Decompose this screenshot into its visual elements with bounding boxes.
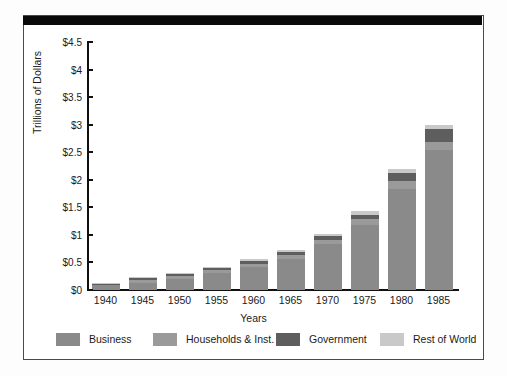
bar-segment	[351, 225, 379, 290]
bar-segment	[240, 264, 268, 267]
y-tick-label: $1	[71, 229, 82, 240]
chart-figure: Trillions of Dollars $0$0.5$1$1.5$2$2.5$…	[0, 0, 507, 376]
legend-item: Households & Inst.	[153, 330, 274, 348]
legend-swatch	[276, 333, 300, 346]
y-tick-mark	[87, 206, 93, 208]
x-axis-title: Years	[0, 312, 507, 324]
bar-segment	[425, 150, 453, 290]
bar-segment	[425, 142, 453, 150]
y-axis-labels: $0$0.5$1$1.5$2$2.5$3$3.5$4$4.5	[38, 42, 82, 290]
y-tick-label: $4.5	[63, 37, 82, 48]
bar-segment	[351, 219, 379, 224]
y-tick-label: $0	[71, 285, 82, 296]
bar-segment	[388, 169, 416, 173]
bar-segment	[129, 280, 157, 283]
bar-segment	[203, 268, 231, 270]
x-tick-label: 1985	[427, 294, 450, 306]
y-tick-label: $2	[71, 174, 82, 185]
y-tick-mark	[87, 96, 93, 98]
y-tick-mark	[87, 289, 93, 291]
bar-segment	[388, 181, 416, 188]
legend-label: Government	[309, 333, 367, 345]
bar-1985	[425, 125, 453, 290]
bar-segment	[92, 285, 120, 290]
header-band	[23, 16, 482, 25]
bar-segment	[277, 252, 305, 255]
legend-label: Households & Inst.	[186, 333, 274, 345]
x-tick-label: 1980	[390, 294, 413, 306]
bar-1965	[277, 250, 305, 291]
y-tick-mark	[87, 261, 93, 263]
bar-segment	[203, 270, 231, 273]
bar-segment	[166, 274, 194, 276]
bar-segment	[388, 189, 416, 290]
bar-segment	[129, 283, 157, 290]
y-tick-label: $0.5	[63, 257, 82, 268]
bar-1980	[388, 169, 416, 290]
bar-segment	[203, 273, 231, 290]
legend-item: Government	[276, 330, 367, 348]
bar-segment	[203, 267, 231, 268]
x-tick-label: 1975	[353, 294, 376, 306]
x-tick-label: 1955	[205, 294, 228, 306]
x-tick-label: 1965	[279, 294, 302, 306]
bar-1955	[203, 267, 231, 290]
bar-segment	[351, 211, 379, 214]
bar-segment	[277, 250, 305, 252]
bar-segment	[314, 244, 342, 290]
legend-label: Business	[89, 333, 132, 345]
legend-swatch	[56, 333, 80, 346]
legend-item: Business	[56, 330, 132, 348]
y-tick-mark	[87, 69, 93, 71]
bar-segment	[425, 129, 453, 142]
chart-legend: BusinessHouseholds & Inst.GovernmentRest…	[23, 330, 484, 350]
bar-1940	[92, 283, 120, 290]
bar-segment	[166, 273, 194, 274]
y-tick-label: $1.5	[63, 202, 82, 213]
y-tick-label: $2.5	[63, 147, 82, 158]
bar-1945	[129, 277, 157, 291]
plot-area	[87, 42, 457, 290]
bar-segment	[388, 173, 416, 182]
bar-1970	[314, 234, 342, 290]
x-tick-label: 1945	[131, 294, 154, 306]
bar-segment	[92, 284, 120, 285]
y-tick-mark	[87, 151, 93, 153]
bar-segment	[240, 259, 268, 261]
x-tick-label: 1970	[316, 294, 339, 306]
bar-segment	[166, 279, 194, 290]
legend-swatch	[380, 333, 404, 346]
legend-label: Rest of World	[413, 333, 476, 345]
bar-1950	[166, 273, 194, 290]
y-tick-label: $3	[71, 119, 82, 130]
bar-segment	[425, 125, 453, 129]
bar-segment	[166, 276, 194, 279]
legend-item: Rest of World	[380, 330, 476, 348]
bar-segment	[240, 267, 268, 290]
bar-segment	[240, 261, 268, 263]
bar-segment	[314, 240, 342, 245]
bar-segment	[351, 215, 379, 220]
legend-swatch	[153, 333, 177, 346]
bar-segment	[314, 234, 342, 236]
bar-segment	[314, 236, 342, 240]
x-tick-label: 1940	[94, 294, 117, 306]
x-tick-label: 1950	[168, 294, 191, 306]
y-tick-mark	[87, 234, 93, 236]
bar-segment	[129, 277, 157, 278]
bar-segment	[277, 255, 305, 259]
x-tick-label: 1960	[242, 294, 265, 306]
bar-segment	[277, 259, 305, 290]
x-axis-labels: 1940194519501955196019651970197519801985	[87, 294, 459, 310]
bar-segment	[129, 278, 157, 280]
y-tick-mark	[87, 179, 93, 181]
y-tick-label: $3.5	[63, 92, 82, 103]
y-tick-mark	[87, 124, 93, 126]
y-tick-mark	[87, 41, 93, 43]
bar-1960	[240, 259, 268, 290]
bar-1975	[351, 211, 379, 290]
y-tick-label: $4	[71, 64, 82, 75]
